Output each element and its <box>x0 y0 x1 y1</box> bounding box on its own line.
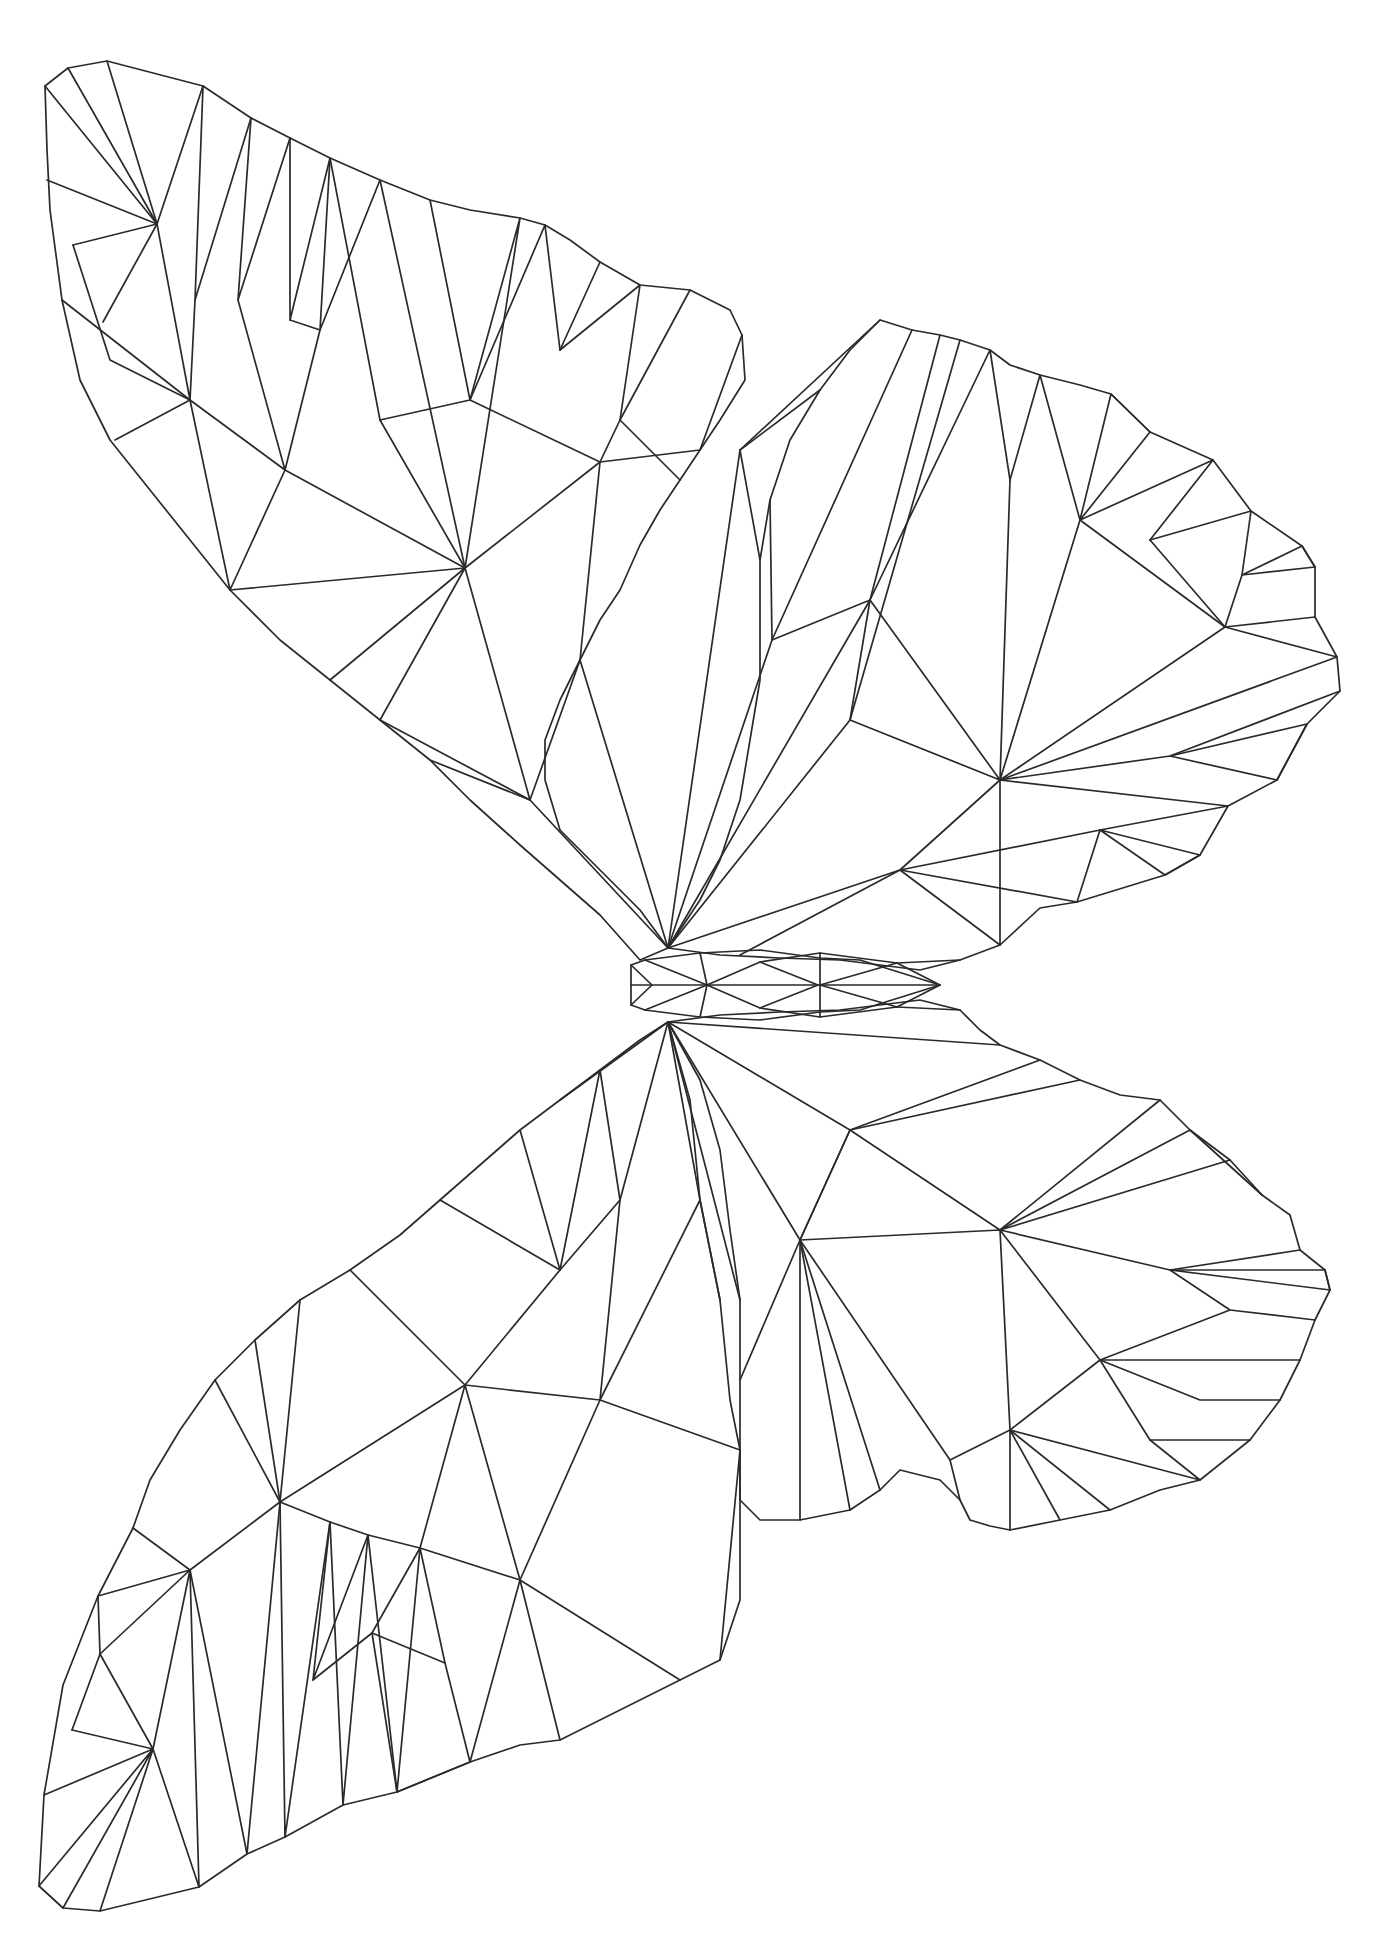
butterfly-illustration <box>0 0 1400 1952</box>
lower-right-wing <box>668 1000 1330 1530</box>
upper-left-wing <box>45 61 745 960</box>
upper-right-wing <box>668 320 1340 970</box>
body <box>631 950 960 1020</box>
lower-left-wing <box>39 1022 740 1911</box>
